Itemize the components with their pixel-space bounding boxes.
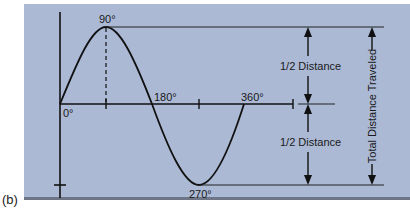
sine-wave-diagram: 90° 180° 360° 0° 270° 1/2 Distance 1/2 D… — [0, 0, 410, 210]
angle-label-90: 90° — [99, 13, 116, 25]
figure-label: (b) — [2, 192, 18, 207]
sine-wave-curve — [60, 27, 244, 185]
angle-label-180: 180° — [154, 91, 177, 103]
lower-half-distance-label: 1/2 Distance — [280, 136, 341, 148]
angle-label-270: 270° — [189, 188, 212, 200]
angle-label-360: 360° — [241, 91, 264, 103]
total-distance-label: Total Distance Traveled — [366, 49, 378, 163]
angle-label-0: 0° — [63, 107, 74, 119]
upper-half-distance-label: 1/2 Distance — [280, 60, 341, 72]
